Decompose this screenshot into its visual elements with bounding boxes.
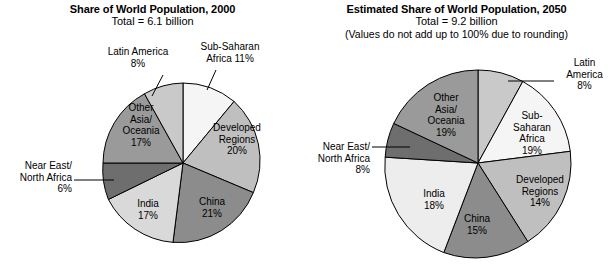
label-sub-saharan-africa: Sub-Saharan Africa 11%	[178, 41, 282, 64]
leader-line-sub-saharan	[207, 70, 216, 90]
label-other-asia-oceania: Other Asia/ Oceania 19%	[417, 92, 475, 138]
label-developed-regions: Developed Regions 14%	[501, 174, 579, 209]
label-latin-america: Latin America 8%	[557, 57, 609, 92]
label-india: India 17%	[123, 198, 173, 221]
figure-two-pie-charts: Share of World Population, 2000 Total = …	[0, 0, 609, 279]
label-china: China 15%	[450, 213, 504, 236]
label-india: India 18%	[409, 188, 459, 211]
label-latin-america: Latin America 8%	[86, 46, 190, 69]
label-china: China 21%	[185, 196, 239, 219]
right-pie-svg	[304, 0, 609, 279]
pie-chart-2050-panel: Estimated Share of World Population, 205…	[304, 0, 609, 279]
label-developed-regions: Developed Regions 20%	[200, 122, 274, 157]
pie-chart-2000-panel: Share of World Population, 2000 Total = …	[0, 0, 305, 279]
label-near-east-north-africa: Near East/ North Africa 6%	[0, 160, 72, 195]
label-sub-saharan-africa: Sub- Saharan Africa 19%	[501, 110, 563, 156]
label-near-east-north-africa: Near East/ North Africa 8%	[292, 141, 370, 176]
label-other-asia-oceania: Other Asia/ Oceania 17%	[112, 102, 170, 148]
